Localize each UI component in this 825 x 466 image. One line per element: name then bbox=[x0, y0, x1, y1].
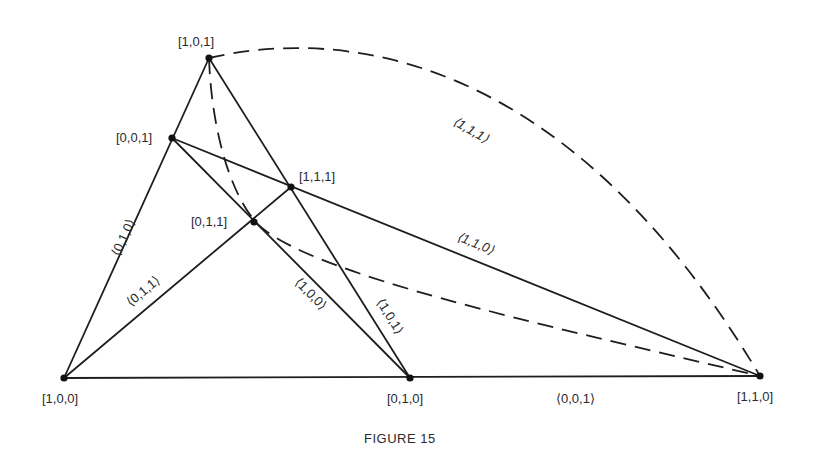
point-001 bbox=[168, 134, 175, 141]
point-110 bbox=[756, 372, 763, 379]
point-label-010: [0,1,0] bbox=[387, 391, 423, 406]
line-111-outer-arc bbox=[209, 48, 760, 376]
line-label-110: ⟨1,1,0⟩ bbox=[455, 229, 497, 257]
line-011 bbox=[64, 187, 291, 378]
fano-plane-diagram: [1,0,1] [0,0,1] [1,1,1] [0,1,1] [1,0,0] … bbox=[0, 0, 825, 466]
line-label-010: ⟨0,1,0⟩ bbox=[108, 217, 138, 259]
point-label-110: [1,1,0] bbox=[737, 389, 773, 404]
line-110 bbox=[172, 138, 760, 376]
point-101 bbox=[205, 54, 212, 61]
point-label-011: [0,1,1] bbox=[191, 214, 227, 229]
line-label-100: ⟨1,0,0⟩ bbox=[292, 275, 330, 313]
point-label-111: [1,1,1] bbox=[299, 169, 335, 184]
point-label-100: [1,0,0] bbox=[42, 391, 78, 406]
point-label-001: [0,0,1] bbox=[116, 130, 152, 145]
point-label-101: [1,0,1] bbox=[178, 34, 214, 49]
point-011 bbox=[250, 218, 257, 225]
line-010 bbox=[64, 58, 209, 378]
line-label-011: ⟨0,1,1⟩ bbox=[123, 273, 162, 310]
line-label-101: ⟨1,0,1⟩ bbox=[373, 296, 406, 337]
point-010 bbox=[406, 374, 413, 381]
line-label-001: ⟨0,0,1⟩ bbox=[556, 391, 595, 406]
point-111 bbox=[287, 183, 294, 190]
line-label-111: ⟨1,1,1⟩ bbox=[451, 114, 492, 146]
point-100 bbox=[60, 374, 67, 381]
line-101 bbox=[209, 58, 410, 378]
figure-caption: FIGURE 15 bbox=[364, 431, 436, 446]
line-111-inner-arc bbox=[209, 58, 760, 376]
